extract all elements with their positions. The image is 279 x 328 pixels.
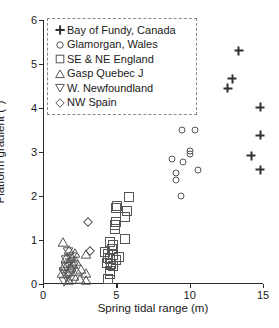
x-axis-title: Spring tidal range (m)	[43, 302, 263, 314]
data-point	[84, 217, 94, 227]
x-tick-mark	[116, 284, 117, 288]
legend-item-label: Glamorgan, Wales	[67, 39, 158, 50]
legend-item-label: W. Newfoundland	[67, 83, 153, 94]
data-point	[85, 246, 95, 256]
legend-item[interactable]: Glamorgan, Wales	[52, 38, 191, 53]
x-tick-mark	[263, 284, 264, 288]
x-tick-label: 15	[257, 290, 269, 301]
y-axis-title: Platform gradient (°)	[0, 100, 6, 203]
diamond-icon	[52, 97, 67, 109]
x-tick-mark	[43, 284, 44, 288]
triangle-up-icon	[52, 68, 67, 80]
plus-icon	[52, 24, 67, 36]
x-axis-title-label: Spring tidal range (m)	[98, 302, 209, 314]
x-tick-mark	[190, 284, 191, 288]
legend: Bay of Fundy, CanadaGlamorgan, WalesSE &…	[47, 18, 197, 115]
legend-item[interactable]: SE & NE England	[52, 52, 191, 67]
x-tick-label: 0	[40, 290, 46, 301]
y-tick-label: 4	[31, 103, 37, 114]
legend-item-label: Gasp Quebec J	[67, 68, 143, 79]
y-tick-label: 2	[31, 191, 37, 202]
x-tick-label: 10	[184, 290, 196, 301]
x-tick-label: 5	[113, 290, 119, 301]
y-tick-label: 3	[31, 147, 37, 158]
triangle-down-icon	[52, 82, 67, 94]
y-axis-title-label: Platform gradient (°)	[0, 100, 6, 203]
square-icon	[52, 53, 67, 65]
legend-item[interactable]: W. Newfoundland	[52, 81, 191, 96]
legend-item[interactable]: Gasp Quebec J	[52, 67, 191, 82]
scatter-chart-figure: Platform gradient (°) Spring tidal range…	[0, 0, 279, 328]
y-tick-label: 0	[31, 279, 37, 290]
legend-item-label: SE & NE England	[67, 54, 154, 65]
legend-item[interactable]: NW Spain	[52, 96, 191, 111]
legend-item-label: NW Spain	[67, 97, 117, 108]
circle-icon	[52, 39, 67, 51]
legend-item-label: Bay of Fundy, Canada	[67, 25, 176, 36]
legend-item[interactable]: Bay of Fundy, Canada	[52, 23, 191, 38]
y-tick-label: 6	[31, 15, 37, 26]
y-tick-label: 1	[31, 235, 37, 246]
y-tick-label: 5	[31, 59, 37, 70]
